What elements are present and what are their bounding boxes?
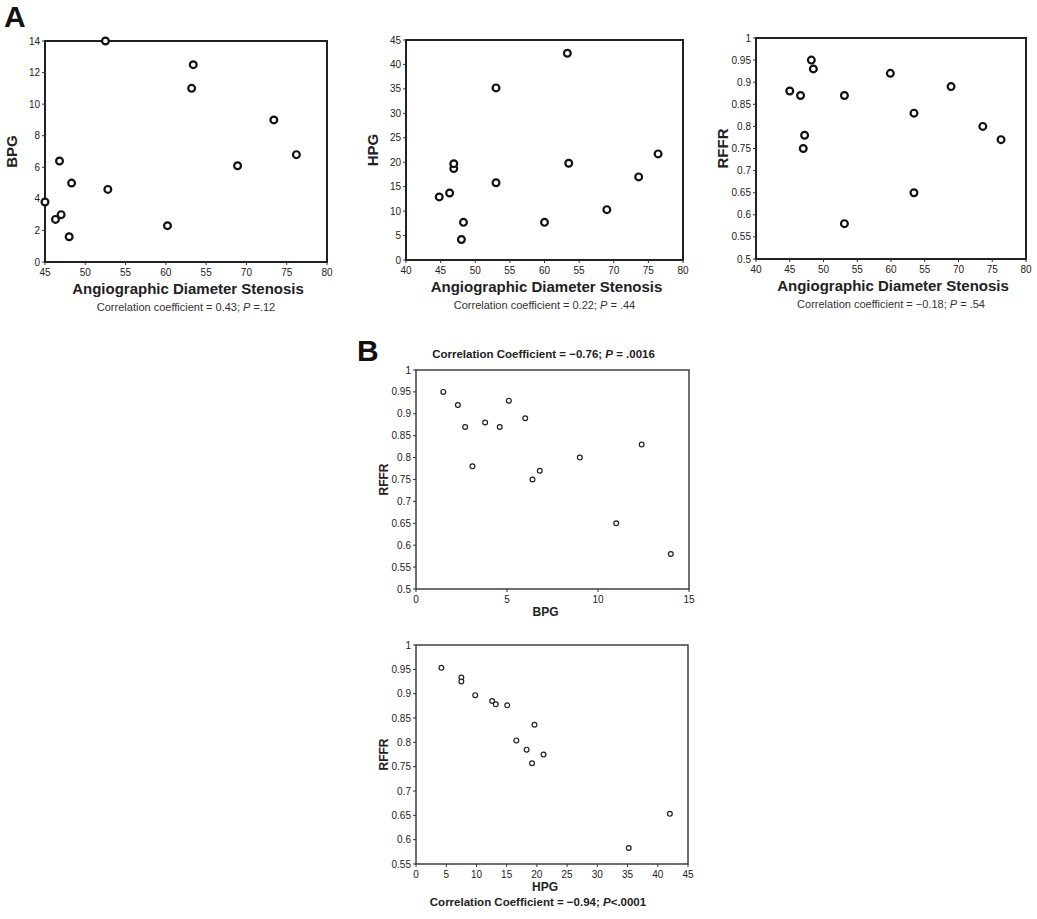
x-tick-label: 55: [574, 265, 586, 276]
y-tick-label: 12: [29, 67, 41, 78]
data-point: [56, 158, 63, 165]
y-tick-label: 45: [390, 35, 402, 46]
y-tick-label: 0.7: [397, 496, 411, 507]
y-tick-label: 0.55: [392, 859, 412, 870]
data-point: [841, 220, 848, 227]
data-point: [493, 179, 500, 186]
data-point: [537, 468, 542, 473]
x-tick-label: 55: [120, 267, 132, 278]
data-point: [450, 160, 457, 167]
x-tick-label: 55: [919, 264, 931, 275]
data-point: [523, 416, 528, 421]
data-point: [470, 464, 475, 469]
y-tick-label: 10: [390, 206, 402, 217]
plot-frame: [416, 645, 688, 864]
correlation-caption: Correlation coefficient = 0.22; P = .44: [454, 299, 635, 311]
data-point: [188, 85, 195, 92]
y-axis-label: BPG: [3, 135, 20, 168]
data-point: [998, 136, 1005, 143]
x-tick-label: 35: [622, 869, 634, 880]
x-tick-label: 5: [504, 594, 510, 605]
data-point: [506, 398, 511, 403]
y-tick-label: 1: [405, 365, 411, 376]
y-tick-label: 0.65: [732, 187, 752, 198]
x-tick-label: 75: [281, 267, 293, 278]
data-point: [626, 846, 631, 851]
y-tick-label: 2: [34, 225, 40, 236]
x-tick-label: 5: [443, 869, 449, 880]
y-tick-label: 0.95: [392, 386, 412, 397]
y-tick-label: 0.9: [737, 77, 751, 88]
data-point: [541, 752, 546, 757]
data-point: [497, 425, 502, 430]
data-point: [577, 455, 582, 460]
data-point: [786, 88, 793, 95]
x-tick-label: 50: [80, 267, 92, 278]
plot-frame: [45, 41, 327, 262]
data-point: [436, 194, 443, 201]
y-tick-label: 15: [390, 181, 402, 192]
x-tick-label: 40: [750, 264, 762, 275]
data-point: [532, 722, 537, 727]
x-tick-label: 45: [39, 267, 51, 278]
data-point: [505, 703, 510, 708]
y-tick-label: 0.9: [397, 688, 411, 699]
data-point: [270, 117, 277, 124]
y-tick-label: 30: [390, 108, 402, 119]
x-axis-label: HPG: [532, 880, 558, 894]
y-tick-label: 0.6: [397, 540, 411, 551]
data-point: [979, 123, 986, 130]
data-point: [190, 61, 197, 68]
data-point: [524, 747, 529, 752]
y-tick-label: 35: [390, 83, 402, 94]
x-tick-label: 70: [241, 267, 253, 278]
y-tick-label: 0.7: [737, 165, 751, 176]
data-point: [459, 679, 464, 684]
y-tick-label: 0.95: [732, 55, 752, 66]
x-tick-label: 80: [1020, 264, 1032, 275]
data-point: [808, 57, 815, 64]
y-tick-label: 0.8: [397, 452, 411, 463]
y-tick-label: 10: [29, 99, 41, 110]
y-tick-label: 0.85: [732, 99, 752, 110]
data-point: [639, 442, 644, 447]
data-point: [42, 199, 49, 206]
x-tick-label: 20: [531, 869, 543, 880]
x-tick-label: 0: [413, 594, 419, 605]
data-point: [530, 477, 535, 482]
x-tick-label: 80: [321, 267, 333, 278]
x-tick-label: 0: [413, 869, 419, 880]
data-point: [234, 162, 241, 169]
data-point: [463, 425, 468, 430]
correlation-caption: Correlation coefficient = 0.43; P =.12: [97, 301, 275, 313]
data-point: [58, 211, 65, 218]
figure-canvas: A B 024681012144550556055707580Angiograp…: [0, 0, 1037, 919]
data-point: [667, 811, 672, 816]
x-tick-label: 40: [652, 869, 664, 880]
data-point: [473, 693, 478, 698]
y-tick-label: 0.75: [732, 143, 752, 154]
x-tick-label: 30: [592, 869, 604, 880]
x-tick-label: 25: [562, 869, 574, 880]
data-point: [541, 219, 548, 226]
y-tick-label: 0.95: [392, 664, 412, 675]
scatter-rffr-vs-hpg: 0.550.60.650.70.750.80.850.90.9510510152…: [377, 640, 694, 909]
y-tick-label: 0.65: [392, 518, 412, 529]
y-axis-label: RFFR: [377, 738, 391, 770]
data-point: [911, 189, 918, 196]
x-tick-label: 55: [504, 265, 516, 276]
y-axis-label: RFFR: [377, 463, 391, 495]
x-tick-label: 55: [852, 264, 864, 275]
x-tick-label: 50: [818, 264, 830, 275]
x-tick-label: 70: [953, 264, 965, 275]
y-tick-label: 0.9: [397, 408, 411, 419]
data-point: [514, 738, 519, 743]
y-tick-label: 1: [745, 33, 751, 44]
x-tick-label: 45: [435, 265, 447, 276]
x-tick-label: 15: [683, 594, 695, 605]
plot-frame: [406, 40, 683, 260]
y-tick-label: 4: [34, 193, 40, 204]
data-point: [104, 186, 111, 193]
chart-title: Correlation Coefficient = −0.76; P = .00…: [432, 348, 655, 360]
data-point: [102, 38, 109, 45]
